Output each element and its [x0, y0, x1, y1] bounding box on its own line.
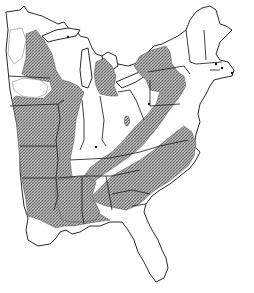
marker-massachusetts [221, 67, 223, 69]
isolated-range-patch-ohio [125, 116, 130, 126]
marker-cape-cod [231, 72, 233, 74]
range-gulf-states [56, 176, 100, 222]
marker-upper-michigan [67, 36, 69, 38]
range-map-figure [0, 0, 254, 293]
marker-western-pennsylvania [148, 103, 150, 105]
marker-new-hampshire [215, 63, 217, 65]
marker-kentucky [95, 146, 97, 148]
map-svg [0, 0, 254, 293]
